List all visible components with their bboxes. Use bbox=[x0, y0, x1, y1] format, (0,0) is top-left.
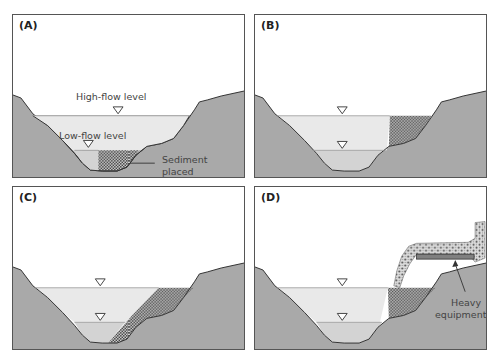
panel-label: (D) bbox=[261, 191, 280, 204]
high-flow-marker-icon bbox=[337, 107, 347, 114]
equipment-label-line1: Heavy bbox=[451, 297, 481, 308]
panel-c: (C) bbox=[12, 186, 245, 350]
channel-cross-section-c bbox=[13, 187, 244, 349]
panel-a: (A) High-flow level Low-flow level Sedim… bbox=[12, 14, 245, 178]
channel-cross-section-b bbox=[255, 15, 486, 177]
panel-label: (C) bbox=[19, 191, 37, 204]
heavy-equipment bbox=[417, 254, 475, 259]
high-flow-marker-icon bbox=[113, 107, 123, 114]
panel-d: (D) Heavy equipment bbox=[254, 186, 487, 350]
equipment-label-line2: equipment bbox=[435, 309, 486, 320]
high-flow-marker-icon bbox=[95, 279, 105, 286]
channel-cross-section-d bbox=[255, 187, 486, 349]
arrowhead-icon bbox=[452, 260, 458, 267]
high-flow-label: High-flow level bbox=[76, 91, 146, 102]
panel-label: (B) bbox=[261, 19, 279, 32]
panel-b: (B) bbox=[254, 14, 487, 178]
low-flow-label: Low-flow level bbox=[59, 130, 126, 141]
sediment-label-line2: placed bbox=[162, 166, 194, 177]
high-flow-marker-icon bbox=[337, 279, 347, 286]
panel-label: (A) bbox=[19, 19, 38, 32]
sediment-label-line1: Sediment bbox=[162, 154, 207, 165]
